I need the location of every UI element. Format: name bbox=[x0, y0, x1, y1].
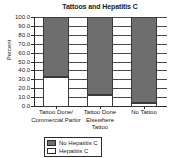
y-tick-label: 20.0 bbox=[4, 85, 30, 91]
y-tick-mark bbox=[31, 88, 34, 89]
legend-label: No Hepatitis C bbox=[59, 140, 98, 147]
x-tick-label: No Tattoo bbox=[118, 109, 170, 117]
legend-item: No Hepatitis C bbox=[47, 139, 98, 147]
y-tick-label: 60.0 bbox=[4, 50, 30, 56]
y-tick-label: 30.0 bbox=[4, 76, 30, 82]
y-tick-label: 50.0 bbox=[4, 59, 30, 65]
legend-label: Hepatitis C bbox=[59, 148, 88, 155]
y-tick-label: 40.0 bbox=[4, 67, 30, 73]
y-tick-label: 10.0 bbox=[4, 94, 30, 100]
chart-legend: No Hepatitis CHepatitis C bbox=[44, 137, 102, 157]
y-tick-mark bbox=[31, 79, 34, 80]
y-tick-mark bbox=[31, 26, 34, 27]
y-tick-mark bbox=[31, 44, 34, 45]
chart-container: Tattoos and Hepatitis C Percent 100.090.… bbox=[0, 0, 174, 158]
bar-segment-no-hepatitis-c bbox=[131, 17, 157, 103]
y-tick-label: 100.0 bbox=[4, 14, 30, 20]
y-tick-label: 90.0 bbox=[4, 23, 30, 29]
y-tick-label: 0.0 bbox=[4, 103, 30, 109]
legend-swatch-hepatitis-c bbox=[47, 148, 56, 154]
legend-item: Hepatitis C bbox=[47, 147, 98, 155]
bar-segment-no-hepatitis-c bbox=[87, 17, 113, 95]
chart-title: Tattoos and Hepatitis C bbox=[34, 3, 166, 11]
y-tick-mark bbox=[31, 70, 34, 71]
bar-segment-hepatitis-c bbox=[43, 77, 69, 107]
y-tick-label: 80.0 bbox=[4, 32, 30, 38]
y-tick-label: 70.0 bbox=[4, 41, 30, 47]
y-tick-mark bbox=[31, 53, 34, 54]
y-tick-mark bbox=[31, 35, 34, 36]
y-tick-mark bbox=[31, 17, 34, 18]
legend-swatch-no-hepatitis-c bbox=[47, 140, 56, 146]
bar-segment-no-hepatitis-c bbox=[43, 17, 69, 77]
y-tick-mark bbox=[31, 62, 34, 63]
y-tick-mark bbox=[31, 106, 34, 107]
y-tick-mark bbox=[31, 97, 34, 98]
